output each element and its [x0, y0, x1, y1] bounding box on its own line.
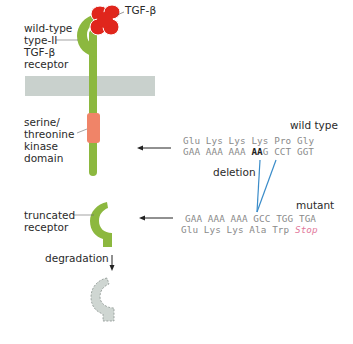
kinase-label: serine/ threonine kinase domain — [24, 116, 74, 164]
aa: Lys — [251, 135, 268, 146]
label-line: wild-type — [24, 22, 72, 34]
label-line: type-II — [24, 34, 72, 46]
aa: Glu — [183, 135, 200, 146]
wt-arrow — [137, 146, 171, 151]
label-line: threonine — [24, 128, 74, 140]
codons: G CCT GGT — [263, 146, 314, 157]
wt-receptor-label: wild-type type-II TGF-β receptor — [24, 22, 72, 70]
label-line: truncated — [24, 209, 75, 221]
label-line: kinase — [24, 140, 74, 152]
stop-codon: Stop — [295, 224, 318, 235]
deleted-bases: AA — [251, 146, 262, 157]
mutant-arrow — [139, 216, 173, 221]
aa: Pro — [274, 135, 291, 146]
degraded-receptor — [91, 278, 114, 321]
kinase-domain — [87, 113, 100, 143]
aa: Lys — [229, 135, 246, 146]
mutant-aa-line: Glu Lys Lys Ala Trp Stop — [181, 224, 318, 235]
label-line: serine/ — [24, 116, 74, 128]
tgf-beta-ligand — [90, 5, 120, 35]
deletion-lines — [257, 160, 276, 212]
aa: Gly — [297, 135, 314, 146]
wt-aa-line: Glu Lys Lys Lys Pro Gly — [183, 135, 314, 146]
deletion-label: deletion — [213, 166, 256, 178]
truncated-label: truncated receptor — [24, 209, 75, 233]
mutant-header: mutant — [296, 199, 334, 211]
label-line: receptor — [24, 58, 72, 70]
kinase-leader — [77, 129, 87, 133]
wt-codon-line: GAA AAA AAA AAG CCT GGT — [183, 146, 314, 157]
truncated-receptor — [90, 202, 112, 247]
wild-type-header: wild type — [290, 119, 338, 131]
aa: Glu Lys Lys Ala Trp — [181, 224, 295, 235]
degradation-arrow — [110, 255, 115, 271]
degradation-label: degradation — [45, 252, 109, 264]
aa: Lys — [206, 135, 223, 146]
label-line: domain — [24, 152, 74, 164]
label-line: receptor — [24, 221, 75, 233]
codons: GAA AAA AAA — [183, 146, 251, 157]
ligand-label: TGF-β — [125, 4, 156, 16]
mutant-codon-line: GAA AAA AAA GCC TGG TGA — [185, 213, 316, 224]
label-line: TGF-β — [24, 46, 72, 58]
